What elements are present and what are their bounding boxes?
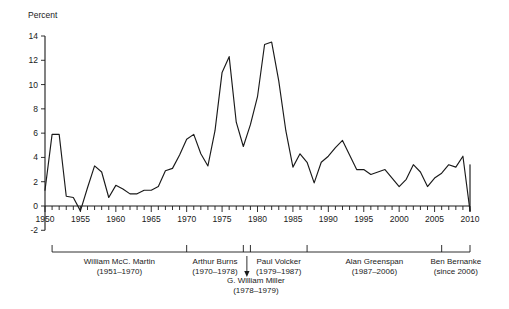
chair-years-william-mcc-martin: (1951–1970) xyxy=(97,267,143,276)
chair-name-alan-greenspan: Alan Greenspan xyxy=(345,257,403,266)
y-tick-label-0: 0 xyxy=(33,201,38,211)
x-tick-label-2010: 2010 xyxy=(461,214,480,224)
y-tick-label-12: 12 xyxy=(29,55,39,65)
data-series-inflation-rate xyxy=(45,42,470,211)
x-tick-label-1960: 1960 xyxy=(106,214,125,224)
x-tick-label-1950: 1950 xyxy=(36,214,55,224)
x-tick-label-2005: 2005 xyxy=(425,214,444,224)
chair-name-paul-volcker: Paul Volcker xyxy=(257,257,302,266)
y-tick-label-10: 10 xyxy=(29,80,39,90)
x-tick-label-1980: 1980 xyxy=(248,214,267,224)
x-tick-label-1985: 1985 xyxy=(283,214,302,224)
chair-years-ben-bernanke: (since 2006) xyxy=(434,267,478,276)
chair-years-alan-greenspan: (1987–2006) xyxy=(352,267,398,276)
y-tick-label-14: 14 xyxy=(29,31,39,41)
x-tick-label-1955: 1955 xyxy=(71,214,90,224)
chair-years-arthur-burns: (1970–1978) xyxy=(192,267,238,276)
x-tick-label-1965: 1965 xyxy=(142,214,161,224)
x-tick-label-2000: 2000 xyxy=(390,214,409,224)
chair-name-ben-bernanke: Ben Bernanke xyxy=(430,257,481,266)
inflation-chart: Percent-20246810121419501955196019651970… xyxy=(0,0,509,309)
chart-canvas: Percent-20246810121419501955196019651970… xyxy=(0,0,509,309)
y-tick-label-4: 4 xyxy=(33,152,38,162)
y-tick-label-2: 2 xyxy=(33,177,38,187)
chair-name-g-william-miller: G. William Miller xyxy=(227,276,285,285)
chair-years-g-william-miller: (1978–1979) xyxy=(233,286,279,295)
x-tick-label-1995: 1995 xyxy=(354,214,373,224)
y-tick-label--2: -2 xyxy=(30,225,38,235)
y-tick-label-6: 6 xyxy=(33,128,38,138)
chair-years-paul-volcker: (1979–1987) xyxy=(256,267,302,276)
y-axis-label: Percent xyxy=(28,10,58,20)
chair-name-william-mcc-martin: William McC. Martin xyxy=(84,257,155,266)
y-tick-label-8: 8 xyxy=(33,104,38,114)
x-tick-label-1970: 1970 xyxy=(177,214,196,224)
x-tick-label-1990: 1990 xyxy=(319,214,338,224)
x-tick-label-1975: 1975 xyxy=(213,214,232,224)
chair-name-arthur-burns: Arthur Burns xyxy=(193,257,238,266)
